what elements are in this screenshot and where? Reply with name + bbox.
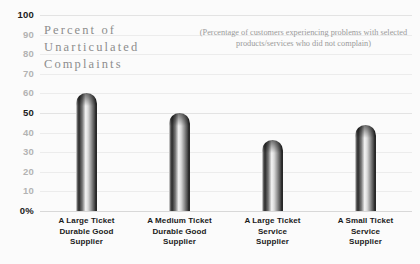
y-tick-label-0: 0%: [20, 206, 34, 216]
y-tick-label-100: 100: [18, 10, 34, 20]
chart-subtitle-note: (Percentage of customers experiencing pr…: [196, 27, 411, 49]
y-tick-label-90: 90: [23, 30, 34, 40]
y-tick-label-40: 40: [23, 128, 34, 138]
bar: [262, 140, 283, 211]
bar: [169, 113, 190, 211]
chart-title: Percent of Unarticulated Complaints: [44, 22, 194, 73]
gridline-60: [40, 93, 412, 94]
bar: [355, 125, 376, 211]
y-tick-label-20: 20: [23, 167, 34, 177]
y-tick-label-70: 70: [23, 69, 34, 79]
bar-chart: 1009080706050403020100% Percent of Unart…: [0, 0, 420, 264]
y-tick-label-80: 80: [23, 49, 34, 59]
gridline-100: [40, 15, 412, 16]
x-axis-labels: A Large Ticket Durable Good SupplierA Me…: [40, 216, 412, 260]
y-tick-label-30: 30: [23, 147, 34, 157]
y-tick-label-50: 50: [23, 108, 34, 118]
y-tick-label-10: 10: [23, 187, 34, 197]
gridline-70: [40, 74, 412, 75]
y-axis: 1009080706050403020100%: [0, 0, 40, 230]
gridline-0: [40, 211, 412, 212]
y-tick-label-60: 60: [23, 89, 34, 99]
bar: [76, 93, 97, 211]
x-axis-label: A Small Ticket Service Supplier: [311, 216, 420, 248]
